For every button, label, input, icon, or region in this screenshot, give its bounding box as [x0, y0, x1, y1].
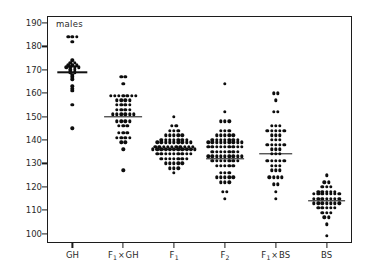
x-tick-label-f2: F2	[220, 250, 229, 260]
y-tick-label: 130	[26, 158, 42, 168]
x-tick-label-f1: F1	[170, 250, 179, 260]
y-tick-label: 170	[26, 65, 42, 75]
y-tick-mark	[42, 46, 47, 47]
y-tick-label: 140	[26, 135, 42, 145]
x-tick-mark	[173, 243, 174, 248]
y-tick-label: 110	[26, 205, 42, 215]
y-tick-mark	[42, 233, 47, 234]
y-tick-mark	[42, 93, 47, 94]
plot-area-frame	[47, 16, 352, 243]
y-tick-mark	[42, 163, 47, 164]
y-tick-mark	[42, 22, 47, 23]
x-tick-label-f1gh: F1×GH	[108, 250, 139, 260]
y-tick-mark	[42, 116, 47, 117]
x-tick-mark	[275, 243, 276, 248]
y-tick-label: 100	[26, 229, 42, 239]
y-tick-mark	[42, 69, 47, 70]
x-tick-label-f1bs: F1×BS	[261, 250, 290, 260]
y-tick-mark	[42, 139, 47, 140]
x-tick-mark	[224, 243, 225, 248]
x-tick-mark	[123, 243, 124, 248]
x-tick-label-bs: BS	[321, 250, 332, 260]
x-tick-label-gh: GH	[66, 250, 79, 260]
y-tick-label: 160	[26, 88, 42, 98]
y-tick-label: 180	[26, 41, 42, 51]
y-axis-tick-labels: 100110120130140150160170180190	[0, 0, 42, 270]
y-tick-mark	[42, 210, 47, 211]
x-tick-mark	[326, 243, 327, 248]
y-tick-mark	[42, 186, 47, 187]
y-tick-label: 120	[26, 182, 42, 192]
figure-males-dotplot: 100110120130140150160170180190 males GHF…	[0, 0, 367, 270]
panel-label-males: males	[56, 19, 83, 29]
y-tick-label: 190	[26, 18, 42, 28]
y-tick-label: 150	[26, 112, 42, 122]
x-tick-mark	[72, 243, 73, 248]
